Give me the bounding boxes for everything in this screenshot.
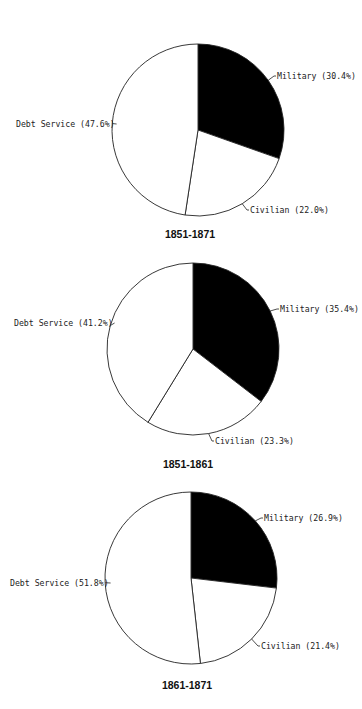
pie-charts-figure: Military (30.4%) Civilian (22.0%) Debt S…	[0, 0, 362, 709]
pie-slices	[112, 44, 284, 216]
debt-service-label: Debt Service (41.2%)	[14, 318, 113, 328]
military-label: Military (35.4%)	[280, 304, 359, 314]
chart-title: 1861-1871	[162, 679, 212, 691]
pie-slices	[105, 492, 277, 664]
debt-service-label: Debt Service (47.6%)	[16, 119, 115, 129]
debt-service-label: Debt Service (51.8%)	[10, 578, 109, 588]
slice-debt-service	[112, 44, 198, 215]
leader-line	[270, 309, 279, 311]
pie-chart-1851-1871: Military (30.4%) Civilian (22.0%) Debt S…	[16, 44, 356, 240]
leader-line	[252, 639, 260, 646]
leader-line	[242, 204, 249, 210]
pie-chart-1861-1871: Military (26.9%) Civilian (21.4%) Debt S…	[10, 492, 343, 691]
chart-title: 1851-1861	[163, 458, 213, 470]
leader-line	[268, 76, 276, 80]
slice-military	[191, 492, 277, 588]
pie-slices	[107, 263, 279, 435]
civilian-label: Civilian (23.3%)	[215, 436, 294, 446]
pie-chart-1851-1861: Military (35.4%) Civilian (23.3%) Debt S…	[14, 263, 359, 470]
chart-title: 1851-1871	[165, 228, 215, 240]
leader-line	[255, 518, 263, 521]
military-label: Military (26.9%)	[264, 513, 343, 523]
civilian-label: Civilian (21.4%)	[261, 641, 340, 651]
slice-debt-service	[105, 492, 200, 664]
military-label: Military (30.4%)	[277, 71, 356, 81]
leader-line	[209, 434, 214, 441]
civilian-label: Civilian (22.0%)	[250, 205, 329, 215]
